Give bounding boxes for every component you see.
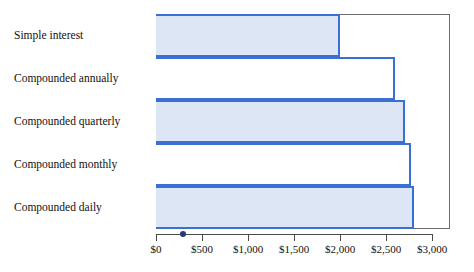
category-label-compounded-daily: Compounded daily xyxy=(0,186,148,229)
x-tick-6 xyxy=(432,234,433,241)
bar-chart: Simple interest Compounded annually Comp… xyxy=(0,0,474,272)
bar-simple-interest xyxy=(156,14,340,57)
x-tick-3 xyxy=(294,234,295,241)
x-tick-1 xyxy=(202,234,203,241)
x-tick-label-6: $3,000 xyxy=(404,243,460,255)
category-label-compounded-quarterly: Compounded quarterly xyxy=(0,100,148,143)
axis-marker-dot xyxy=(180,231,186,237)
category-axis-labels: Simple interest Compounded annually Comp… xyxy=(0,14,152,229)
x-tick-4 xyxy=(340,234,341,241)
category-label-simple-interest: Simple interest xyxy=(0,14,148,57)
bar-compounded-daily xyxy=(156,186,414,229)
bars-layer xyxy=(156,14,450,229)
category-label-compounded-monthly: Compounded monthly xyxy=(0,143,148,186)
bar-compounded-monthly xyxy=(156,143,411,186)
bar-compounded-quarterly xyxy=(156,100,405,143)
bar-compounded-annually xyxy=(156,57,395,100)
x-tick-2 xyxy=(248,234,249,241)
x-tick-0 xyxy=(156,234,157,241)
x-tick-5 xyxy=(386,234,387,241)
category-label-compounded-annually: Compounded annually xyxy=(0,57,148,100)
